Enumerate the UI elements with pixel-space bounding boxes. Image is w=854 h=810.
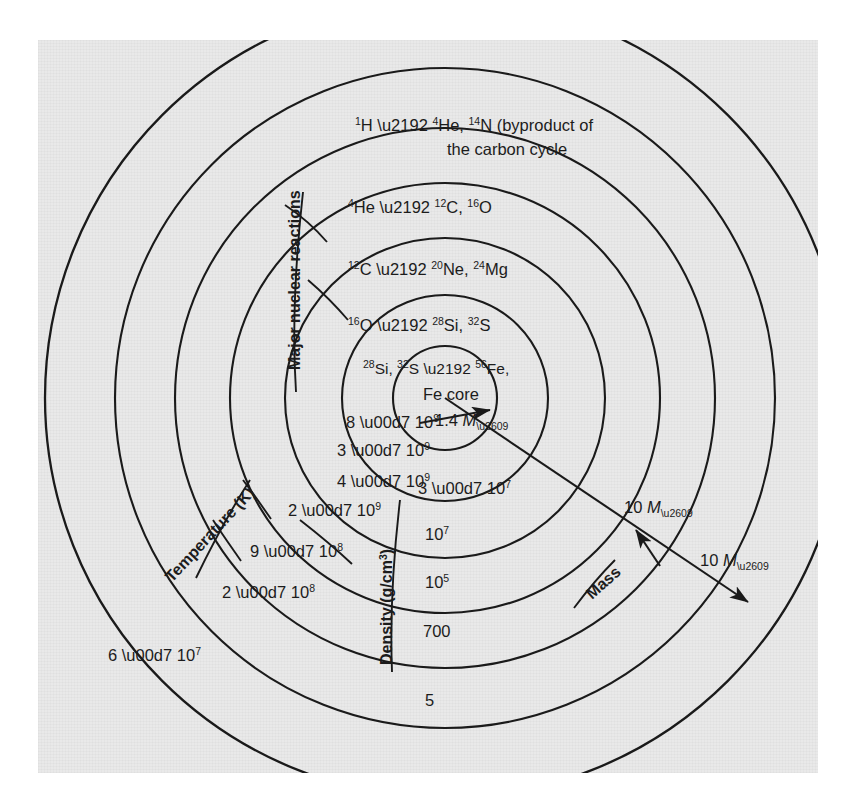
axis-title-temperature: Temperature (K): [162, 484, 258, 585]
temperature-2e9: 2 \u00d7 109: [288, 500, 381, 519]
density-values: 3 \u00d7 107 107 105 700 5: [418, 478, 511, 709]
reaction-hydrogen-line2: the carbon cycle: [447, 140, 567, 158]
reaction-carbon: 12C \u2192 20Ne, 24Mg: [348, 259, 508, 278]
core-label: Fe core: [423, 385, 479, 403]
density-1e7: 107: [425, 524, 449, 543]
mass-inner-label: 10 M\u2609: [624, 498, 693, 519]
axis-title-density: Density (g/cm3): [377, 549, 395, 665]
shell-reaction-labels: 1H \u2192 4He, 14N (byproduct of the car…: [348, 115, 593, 377]
mass-outer-label: 10 M\u2609: [700, 551, 769, 572]
axis-title-mass: Mass: [583, 563, 624, 602]
density-5: 5: [425, 691, 434, 709]
density-3e7: 3 \u00d7 107: [418, 478, 511, 497]
temperature-2e8: 2 \u00d7 108: [222, 582, 315, 601]
reaction-hydrogen-line1: 1H \u2192 4He, 14N (byproduct of: [355, 115, 593, 134]
core-mass-label: 1.4 M\u2609: [435, 411, 509, 432]
mass-values: 10 M\u2609 10 M\u2609: [624, 498, 769, 572]
reaction-helium: 4He \u2192 12C, 16O: [348, 197, 492, 216]
temperature-6e7: 6 \u00d7 107: [108, 645, 201, 664]
diagram-canvas: 1H \u2192 4He, 14N (byproduct of the car…: [0, 0, 854, 810]
onion-shell-diagram: 1H \u2192 4He, 14N (byproduct of the car…: [0, 0, 854, 810]
temperature-9e8: 9 \u00d7 108: [250, 541, 343, 560]
temperature-8e9: 8 \u00d7 109: [346, 412, 439, 431]
reaction-silicon: 28Si, 32S \u2192 56Fe,: [363, 358, 509, 377]
temperature-4e9: 4 \u00d7 109: [337, 471, 430, 490]
density-700: 700: [423, 622, 451, 640]
reaction-oxygen: 16O \u2192 28Si, 32S: [348, 315, 490, 334]
axis-title-reactions: Major nuclear reactions: [286, 190, 303, 370]
density-1e5: 105: [425, 572, 449, 591]
temperature-3e9: 3 \u00d7 109: [337, 440, 430, 459]
tick-carbon: [308, 280, 348, 320]
